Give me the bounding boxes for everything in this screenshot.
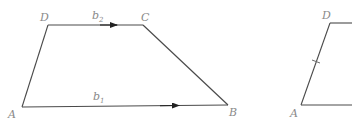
edge-ad-right <box>301 23 330 105</box>
diagram-canvas: D C A B b2 b1 D A <box>0 0 352 127</box>
trapezoid-partial: D A <box>289 9 352 120</box>
vertex-label-d: D <box>39 11 49 24</box>
edge-ab <box>22 105 228 107</box>
vertex-label-c: C <box>141 11 150 24</box>
vertex-label-a-right: A <box>289 107 298 120</box>
trapezoid-vectors: D C A B b2 b1 <box>7 9 237 121</box>
vector-label-b1: b1 <box>93 90 105 105</box>
vertex-label-a: A <box>7 108 16 121</box>
edge-cb <box>143 25 228 105</box>
edge-ad <box>22 25 48 107</box>
vertex-label-d-right: D <box>321 9 331 22</box>
vertex-label-b: B <box>228 106 237 119</box>
vector-label-b2: b2 <box>92 9 104 24</box>
